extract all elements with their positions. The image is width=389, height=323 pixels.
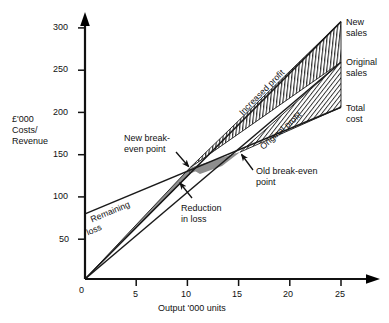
y-axis-title-line2: Costs/ [12,125,38,136]
x-tick-label-10: 10 [181,289,191,300]
y-tick-label-250: 250 [53,64,68,75]
x-tick-label-0: 0 [79,285,84,296]
y-tick-label-50: 50 [59,234,69,245]
break-even-chart: 300 250 200 150 100 50 0 5 10 15 20 25 O… [0,0,389,323]
y-tick-label-100: 100 [53,191,68,202]
annotation-new-break-even-line2: even point [124,144,166,155]
x-axis-title: Output '000 units [158,303,226,314]
annotation-reduction-in-loss-line1: Reduction [181,203,222,214]
y-axis-title-line1: £'000 [12,114,34,125]
series-label-original-sales-line1: Original [346,57,377,68]
y-tick-label-300: 300 [53,22,68,33]
annotation-old-break-even-line2: point [256,177,276,188]
x-tick-label-25: 25 [335,289,345,300]
x-tick-label-15: 15 [232,289,242,300]
y-tick-label-150: 150 [53,149,68,160]
y-axis-title-line3: Revenue [12,136,48,147]
new-break-even-arrow-icon [176,152,189,167]
old-break-even-arrow-icon [242,155,253,171]
y-axis-arrow-icon [80,12,90,26]
series-line-total-cost [85,107,341,214]
chart-plot-area [0,0,389,323]
series-label-original-sales-line2: sales [346,68,367,79]
series-label-new-sales-line2: sales [346,28,367,39]
y-tick-label-200: 200 [53,107,68,118]
x-tick-label-20: 20 [283,289,293,300]
series-label-new-sales-line1: New [346,17,364,28]
annotation-old-break-even-line1: Old break-even [256,166,318,177]
series-label-total-cost-line1: Total [346,103,365,114]
annotation-reduction-in-loss-line2: in loss [181,214,207,225]
series-label-total-cost-line2: cost [346,114,363,125]
annotation-new-break-even-line1: New break- [124,133,170,144]
x-tick-label-5: 5 [133,289,138,300]
x-axis-arrow-icon [366,274,380,284]
